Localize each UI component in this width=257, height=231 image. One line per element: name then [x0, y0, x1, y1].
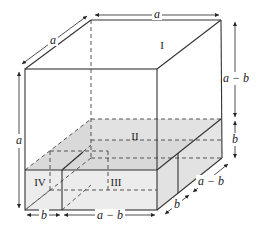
dim-bottom-b: b	[41, 208, 47, 222]
dim-depth-a-minus-b: a − b	[198, 174, 224, 188]
region-iv-label: IV	[34, 176, 46, 188]
dim-top-width: a	[154, 7, 160, 21]
cube-diagram: I II III IV a a a a − b	[0, 0, 257, 231]
dim-depth-b: b	[174, 197, 180, 211]
region-ii-back-shade	[91, 119, 221, 140]
region-ii-label: II	[131, 130, 139, 142]
dim-left-height: a	[16, 133, 22, 147]
region-iii-label: III	[111, 176, 122, 188]
dim-bottom-a-minus-b: a − b	[97, 208, 123, 222]
region-i-label: I	[160, 39, 164, 51]
dim-right-upper: a − b	[223, 71, 249, 85]
dim-top-depth: a	[50, 33, 56, 47]
dim-right-lower: b	[232, 132, 238, 146]
